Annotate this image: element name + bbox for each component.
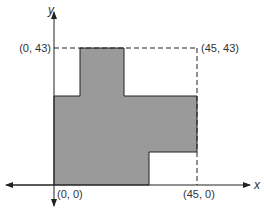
y-axis-label: y [47, 3, 55, 17]
coordinate-diagram: y x (0, 43) (45, 43) (0, 0) (45, 0) [0, 0, 264, 212]
point-label-45-43: (45, 43) [201, 42, 239, 54]
point-label-45-0: (45, 0) [183, 188, 215, 200]
point-label-0-43: (0, 43) [19, 42, 51, 54]
shaded-region [54, 48, 197, 185]
x-axis-label: x [253, 178, 261, 192]
point-label-0-0: (0, 0) [57, 188, 83, 200]
